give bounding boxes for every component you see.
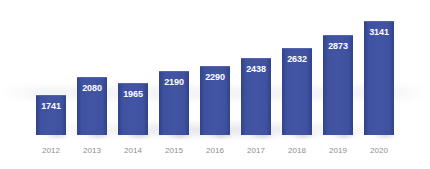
- x-axis-label-2018: 2018: [278, 146, 316, 155]
- bar-2012[interactable]: 1741: [36, 95, 66, 135]
- bar-value-label: 2632: [282, 54, 312, 64]
- x-axis-label-2016: 2016: [196, 146, 234, 155]
- bar-group: 24382017: [241, 0, 271, 169]
- bar-2020[interactable]: 3141: [364, 21, 394, 135]
- x-axis-label-2012: 2012: [32, 146, 70, 155]
- bar-group: 31412020: [364, 0, 394, 169]
- bar-group: 20802013: [77, 0, 107, 169]
- bar-value-label: 1965: [118, 89, 148, 99]
- bar-2015[interactable]: 2190: [159, 71, 189, 135]
- bar-value-label: 2190: [159, 77, 189, 87]
- x-axis-label-2014: 2014: [114, 146, 152, 155]
- x-axis-label-2015: 2015: [155, 146, 193, 155]
- bar-chart: 1741201220802013196520142190201522902016…: [0, 0, 430, 169]
- bar-group: 28732019: [323, 0, 353, 169]
- bar-2013[interactable]: 2080: [77, 77, 107, 135]
- bar-2016[interactable]: 2290: [200, 66, 230, 135]
- bar-value-label: 2873: [323, 41, 353, 51]
- bar-value-label: 2290: [200, 72, 230, 82]
- bar-2018[interactable]: 2632: [282, 48, 312, 135]
- bar-value-label: 3141: [364, 27, 394, 37]
- x-axis-label-2020: 2020: [360, 146, 398, 155]
- bar-value-label: 1741: [36, 101, 66, 111]
- bar-value-label: 2080: [77, 83, 107, 93]
- x-axis-label-2017: 2017: [237, 146, 275, 155]
- bar-group: 17412012: [36, 0, 66, 169]
- x-axis-label-2013: 2013: [73, 146, 111, 155]
- bar-2014[interactable]: 1965: [118, 83, 148, 135]
- x-axis-label-2019: 2019: [319, 146, 357, 155]
- bar-group: 26322018: [282, 0, 312, 169]
- plot-area: 1741201220802013196520142190201522902016…: [0, 0, 430, 169]
- bar-value-label: 2438: [241, 64, 271, 74]
- bar-group: 22902016: [200, 0, 230, 169]
- bar-2017[interactable]: 2438: [241, 58, 271, 135]
- bar-2019[interactable]: 2873: [323, 35, 353, 135]
- bar-group: 21902015: [159, 0, 189, 169]
- bar-group: 19652014: [118, 0, 148, 169]
